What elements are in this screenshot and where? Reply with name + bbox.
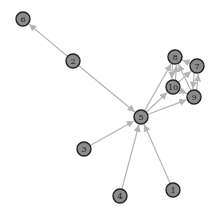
edge-layer: [29, 24, 198, 189]
node-label: 8: [172, 53, 177, 62]
edge-9-to-7: [197, 74, 199, 90]
node-1: 1: [166, 183, 180, 197]
edge-7-to-9: [193, 73, 195, 89]
node-label: 6: [20, 15, 25, 24]
node-label: 1: [170, 186, 175, 195]
node-10: 10: [166, 80, 180, 94]
node-label: 9: [191, 93, 196, 102]
node-label: 7: [194, 62, 199, 71]
edge-2-to-5: [78, 65, 134, 111]
node-4: 4: [113, 189, 127, 203]
node-9: 9: [187, 90, 201, 104]
node-layer: 12345678910: [16, 12, 204, 203]
node-3: 3: [77, 142, 91, 156]
node-2: 2: [66, 54, 80, 68]
node-label: 3: [81, 145, 86, 154]
edge-8-to-10: [172, 64, 173, 79]
node-label: 5: [138, 113, 143, 122]
network-graph: 12345678910: [0, 0, 220, 220]
edge-7-to-8: [182, 60, 190, 63]
edge-2-to-6: [29, 24, 68, 56]
edge-3-to-5: [90, 121, 134, 146]
edge-10-to-8: [175, 65, 176, 80]
node-label: 10: [168, 83, 178, 92]
node-6: 6: [16, 12, 30, 26]
node-7: 7: [190, 59, 204, 73]
node-5: 5: [134, 110, 148, 124]
edge-4-to-5: [122, 125, 139, 190]
node-8: 8: [168, 50, 182, 64]
node-label: 4: [117, 192, 122, 201]
edge-1-to-5: [144, 124, 170, 183]
edge-5-to-9: [148, 100, 187, 115]
edge-10-to-9: [179, 90, 186, 94]
node-label: 2: [70, 57, 75, 66]
